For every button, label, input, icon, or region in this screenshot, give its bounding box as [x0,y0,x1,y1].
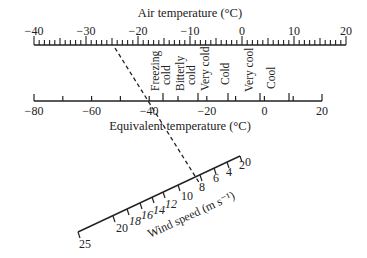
air-tick-label: −10 [181,24,200,38]
wind-chill-nomogram: Air temperature (°C) −40 −30 −20 −10 0 1… [0,0,367,258]
eq-tick-label: −60 [82,104,101,118]
air-tick-label: −40 [25,24,44,38]
wind-tick-label: 0 [245,155,251,169]
zone-label: Cold [219,62,231,85]
wind-tick-label: 16 [141,208,153,222]
zone-label: Very cold [199,46,212,91]
air-tick-label: −20 [129,24,148,38]
air-tick-label: 10 [288,24,300,38]
eq-tick-label: −40 [140,104,159,118]
wind-tick-label: 4 [226,165,232,179]
air-tick-label: 20 [340,24,352,38]
air-tick-label: 0 [239,24,245,38]
wind-speed-scale: 25 20 18 16 14 12 10 8 6 4 2 0 Wind spee… [78,155,251,251]
wind-tick-label: 6 [213,171,219,185]
zone-label: cold [185,65,197,85]
eq-scale-title: Equivalent temperature (°C) [109,119,251,133]
wind-tick-label: 14 [153,203,165,217]
wind-tick-label: 25 [79,237,91,251]
eq-tick-label: 20 [316,104,328,118]
air-temperature-scale: Air temperature (°C) −40 −30 −20 −10 0 1… [25,6,352,45]
air-tick-label: −30 [77,24,96,38]
wind-tick-label: 10 [181,189,193,203]
eq-tick-label: 0 [261,104,267,118]
wind-tick-label: 20 [116,221,128,235]
zone-label: cold [160,65,172,85]
equivalent-temperature-scale: −80 −60 −40 −20 0 20 Equivalent temperat… [25,46,328,133]
zone-label: Very cool [243,48,256,92]
wind-tick-label: 8 [199,180,205,194]
eq-tick-label: −80 [25,104,44,118]
wind-tick-label: 18 [129,214,141,228]
wind-tick-label: 12 [165,197,177,211]
air-scale-title: Air temperature (°C) [138,6,242,20]
zone-label: Cool [265,67,277,89]
eq-tick-label: −20 [197,104,216,118]
